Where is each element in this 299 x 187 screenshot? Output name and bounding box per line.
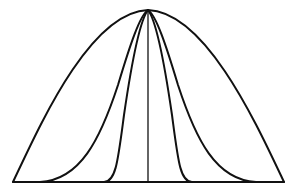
inner-curve-right <box>148 10 192 182</box>
diagram-svg <box>0 0 299 187</box>
bell-curves-diagram <box>0 0 299 187</box>
inner-curve-left <box>104 10 148 182</box>
